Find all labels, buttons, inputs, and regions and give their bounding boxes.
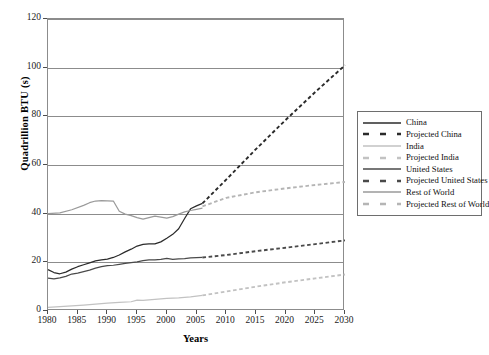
series-line bbox=[48, 201, 202, 219]
y-tick-mark bbox=[43, 115, 47, 116]
legend-label: Projected India bbox=[406, 153, 459, 162]
legend-label: Projected United States bbox=[406, 176, 488, 185]
y-axis-title: Quadrillion BTU (s) bbox=[19, 54, 30, 194]
plot-area bbox=[47, 18, 344, 310]
legend-swatch bbox=[362, 164, 402, 174]
legend-swatch bbox=[362, 153, 402, 163]
legend-item: China bbox=[362, 117, 477, 129]
series-line bbox=[202, 240, 345, 257]
series-line bbox=[48, 257, 202, 278]
x-tick-mark bbox=[314, 310, 315, 314]
y-tick-label: 100 bbox=[15, 62, 41, 72]
legend-label: China bbox=[406, 118, 427, 127]
legend-item: India bbox=[362, 140, 477, 152]
y-tick-label: 120 bbox=[15, 13, 41, 23]
x-tick-mark bbox=[47, 310, 48, 314]
legend-swatch bbox=[362, 129, 402, 139]
x-tick-mark bbox=[344, 310, 345, 314]
legend-item: Rest of World bbox=[362, 187, 477, 199]
x-tick-mark bbox=[196, 310, 197, 314]
y-tick-mark bbox=[43, 18, 47, 19]
x-tick-mark bbox=[106, 310, 107, 314]
legend-label: Rest of World bbox=[406, 188, 454, 197]
legend-label: United States bbox=[406, 165, 453, 174]
x-tick-mark bbox=[166, 310, 167, 314]
series-line bbox=[48, 295, 202, 307]
legend-item: Projected China bbox=[362, 129, 477, 141]
y-tick-mark bbox=[43, 67, 47, 68]
x-tick-label: 2030 bbox=[327, 316, 361, 326]
legend-label: India bbox=[406, 142, 424, 151]
y-tick-label: 0 bbox=[15, 305, 41, 315]
y-tick-label: 40 bbox=[15, 208, 41, 218]
legend-swatch bbox=[362, 141, 402, 151]
legend: ChinaProjected ChinaIndiaProjected India… bbox=[357, 111, 482, 216]
legend-swatch bbox=[362, 118, 402, 128]
legend-label: Projected Rest of World bbox=[406, 200, 489, 209]
series-line bbox=[202, 182, 345, 206]
legend-item: Projected India bbox=[362, 152, 477, 164]
y-tick-mark bbox=[43, 213, 47, 214]
x-tick-mark bbox=[77, 310, 78, 314]
legend-item: United States bbox=[362, 163, 477, 175]
y-tick-mark bbox=[43, 261, 47, 262]
legend-swatch bbox=[362, 187, 402, 197]
y-tick-mark bbox=[43, 164, 47, 165]
series-line bbox=[202, 275, 345, 296]
x-tick-mark bbox=[225, 310, 226, 314]
legend-item: Projected Rest of World bbox=[362, 198, 477, 210]
y-tick-label: 80 bbox=[15, 110, 41, 120]
x-tick-mark bbox=[136, 310, 137, 314]
legend-swatch bbox=[362, 199, 402, 209]
legend-label: Projected China bbox=[406, 130, 462, 139]
x-tick-mark bbox=[255, 310, 256, 314]
x-tick-mark bbox=[285, 310, 286, 314]
legend-swatch bbox=[362, 176, 402, 186]
series-line bbox=[202, 65, 345, 203]
y-tick-label: 20 bbox=[15, 256, 41, 266]
series-layer bbox=[48, 19, 345, 311]
legend-item: Projected United States bbox=[362, 175, 477, 187]
y-tick-label: 60 bbox=[15, 159, 41, 169]
x-axis-title: Years bbox=[47, 333, 344, 344]
